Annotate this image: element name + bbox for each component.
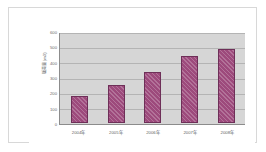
bar-series bbox=[61, 33, 245, 123]
document-border-frame: 販売量(m3) 0 100 200 300 400 500 600 bbox=[8, 7, 257, 143]
bar-slot bbox=[171, 33, 208, 123]
x-axis-tick-label: 2008年 bbox=[209, 129, 246, 135]
x-axis-tick-label: 2007年 bbox=[172, 129, 209, 135]
x-axis-tick-label: 2005年 bbox=[97, 129, 134, 135]
y-axis-tick-label: 500 bbox=[41, 46, 57, 50]
scanned-chart-page: 販売量(m3) 0 100 200 300 400 500 600 bbox=[0, 0, 266, 152]
bar-slot bbox=[98, 33, 135, 123]
bar bbox=[218, 49, 235, 123]
y-axis-tick-label: 400 bbox=[41, 62, 57, 66]
y-axis-tick-labels: 0 100 200 300 400 500 600 bbox=[41, 33, 57, 125]
bar bbox=[144, 72, 161, 123]
y-axis-tick-label: 0 bbox=[41, 123, 57, 127]
bar-chart: 販売量(m3) 0 100 200 300 400 500 600 bbox=[29, 22, 255, 144]
y-axis-tick-label: 600 bbox=[41, 31, 57, 35]
bar bbox=[71, 96, 88, 123]
bar bbox=[108, 85, 125, 123]
x-axis-tick-labels: 2004年 2005年 2006年 2007年 2008年 bbox=[60, 129, 246, 135]
bar bbox=[181, 56, 198, 124]
y-axis-tick-label: 100 bbox=[41, 108, 57, 112]
y-axis-tick-label: 300 bbox=[41, 77, 57, 81]
bar-slot bbox=[208, 33, 245, 123]
y-axis-tick-label: 200 bbox=[41, 92, 57, 96]
x-axis-tick-label: 2006年 bbox=[134, 129, 171, 135]
bar-slot bbox=[61, 33, 98, 123]
bar-slot bbox=[135, 33, 172, 123]
x-axis-tick-label: 2004年 bbox=[60, 129, 97, 135]
plot-area bbox=[59, 33, 245, 125]
